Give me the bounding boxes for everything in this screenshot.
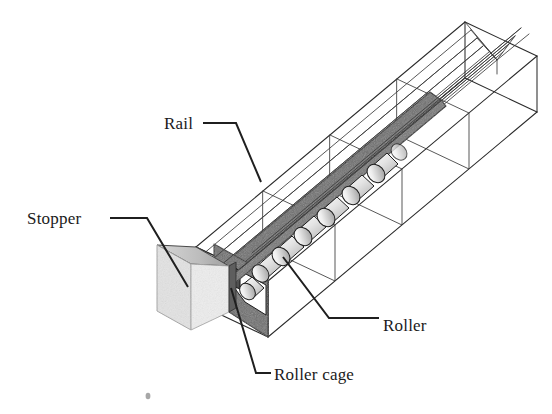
label-rail: Rail [164, 114, 193, 133]
rail-leader [203, 123, 261, 182]
label-roller-cage: Roller cage [274, 365, 354, 384]
label-stopper: Stopper [27, 209, 81, 228]
label-roller: Roller [383, 316, 427, 335]
stopper-side-face [191, 264, 229, 330]
diagram-canvas: Rail Stopper Roller Roller cage [0, 0, 552, 414]
roller-leader [283, 257, 379, 318]
roller-set [236, 141, 410, 303]
roller-guide-diagram: Rail Stopper Roller Roller cage [0, 0, 552, 414]
scan-artifact [146, 393, 151, 399]
